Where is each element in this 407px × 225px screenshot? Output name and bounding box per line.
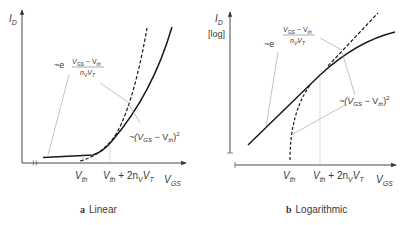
leader-exp — [48, 75, 69, 155]
mosfet-id-vgs-diagram: ID VGS Vth Vth + 2nVVT ~e VGS − Vth nVVT… — [0, 0, 407, 225]
square-law-curve — [290, 85, 310, 160]
svg-text:VGS − Vth: VGS − Vth — [283, 26, 312, 35]
caption-linear: aLinear — [80, 204, 117, 215]
y-axis-label: ID — [9, 13, 17, 26]
panel-logarithmic: ID [log] VGS Vth Vth + 2nVVT ~e VGS − Vt… — [208, 12, 396, 215]
tick-vth-plus-2nvt: Vth + 2nVVT — [103, 170, 154, 183]
caption-logarithmic: bLogarithmic — [286, 204, 347, 215]
tick-vth: Vth — [283, 170, 296, 183]
leader-exp — [266, 52, 278, 127]
exp-fraction-annotation: VGS − Vth nVVT — [283, 26, 315, 46]
svg-text:VGS − Vth: VGS − Vth — [72, 58, 101, 67]
panel-linear: ID VGS Vth Vth + 2nVVT ~e VGS − Vth nVVT… — [9, 10, 186, 215]
exp-annotation: ~e — [54, 60, 64, 70]
svg-text:nVVT: nVVT — [80, 69, 96, 78]
leader-fraction — [100, 83, 128, 102]
y-axis-label: ID — [215, 13, 223, 26]
square-law-annotation: ~(VGS − Vth)2 — [129, 131, 180, 143]
leader-fraction — [320, 38, 342, 50]
square-law-annotation: ~(VGS − Vth)2 — [339, 95, 390, 107]
y-axis-scale-label: [log] — [208, 29, 225, 39]
svg-text:nVVT: nVVT — [290, 37, 306, 46]
exp-fraction-annotation: VGS − Vth nVVT — [72, 58, 104, 78]
x-axis-label: VGS — [164, 174, 181, 187]
leader-square-lower — [293, 105, 345, 134]
x-axis-label: VGS — [376, 174, 393, 187]
leader-square-upper — [342, 52, 355, 95]
tick-vth-plus-2nvt: Vth + 2nVVT — [313, 170, 364, 183]
exp-annotation: ~e — [264, 39, 274, 49]
tick-vth: Vth — [75, 170, 88, 183]
exponential-curve — [328, 13, 378, 66]
